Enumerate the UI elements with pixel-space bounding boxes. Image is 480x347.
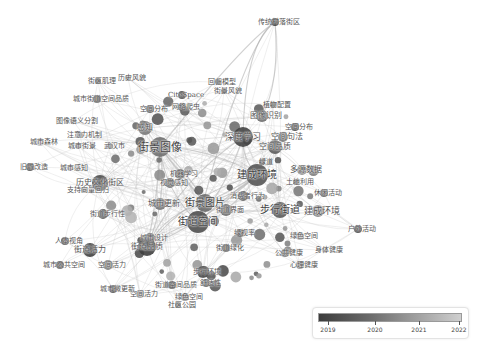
node-label: 城市感知: [60, 165, 88, 172]
keyword-node[interactable]: [190, 243, 198, 251]
legend-gradient-bar: [318, 313, 462, 322]
keyword-node[interactable]: [142, 190, 146, 194]
node-label: 街景风貌: [214, 88, 242, 95]
year-legend: 2019 2020 2021 2022: [312, 307, 469, 339]
legend-label-2020: 2020: [367, 326, 382, 333]
keyword-node[interactable]: [156, 157, 162, 163]
node-label: 公共健康: [275, 250, 303, 257]
node-label: 户外活动: [348, 226, 376, 233]
node-label: 心理健康: [290, 262, 318, 269]
keyword-node[interactable]: [210, 175, 217, 182]
node-label: 舒适性: [200, 280, 221, 287]
keyword-node[interactable]: [275, 157, 281, 163]
node-label: 城市森林: [30, 139, 58, 146]
keyword-node[interactable]: [256, 273, 261, 278]
node-label: 绿视率: [234, 230, 255, 237]
node-label: 建成环境: [237, 170, 277, 180]
node-label: 街道步行性: [90, 211, 125, 218]
keyword-node[interactable]: [187, 137, 196, 146]
legend-tick-2020: [375, 321, 376, 325]
keyword-node[interactable]: [125, 211, 137, 223]
node-label: CiteSpace: [168, 92, 204, 99]
node-label: 城市街道空间品质: [73, 96, 129, 103]
keyword-node[interactable]: [214, 168, 222, 176]
node-label: 旧城改造: [20, 164, 48, 171]
node-label: 空间活力: [98, 262, 126, 269]
node-label: 深度学习: [225, 133, 261, 142]
node-label: 街景图像: [138, 142, 182, 153]
node-label: 多源数据: [290, 166, 322, 174]
keyword-node[interactable]: [264, 223, 268, 227]
keyword-node[interactable]: [152, 113, 164, 125]
node-label: 人本视角: [55, 238, 83, 245]
node-label: 空间分布: [285, 124, 313, 131]
keyword-node[interactable]: [283, 226, 288, 231]
keyword-node[interactable]: [194, 186, 203, 195]
keyword-node[interactable]: [293, 186, 303, 196]
keyword-node[interactable]: [266, 183, 278, 195]
keyword-node[interactable]: [163, 259, 171, 267]
node-label: 图像语义分割: [56, 118, 98, 125]
node-label: 街道绿化: [216, 245, 244, 252]
keyword-node[interactable]: [263, 261, 270, 268]
node-label: 空间品质: [259, 143, 291, 151]
node-label: 传统村落街区: [258, 19, 300, 26]
node-label: 机器学习: [170, 171, 198, 178]
keyword-node[interactable]: [159, 269, 164, 274]
node-label: 土地利用: [286, 179, 314, 186]
node-label: 历史风貌: [118, 75, 146, 82]
keyword-node[interactable]: [249, 275, 254, 280]
keyword-node[interactable]: [152, 212, 157, 217]
keyword-node[interactable]: [230, 272, 241, 283]
node-label: 绿色空间: [290, 233, 318, 240]
legend-label-2021: 2021: [411, 326, 426, 333]
node-label: 街道空间品质: [155, 282, 197, 289]
node-label: 城市街景: [68, 143, 96, 150]
keyword-node[interactable]: [208, 143, 220, 155]
node-label: 建成环境: [304, 207, 340, 216]
node-label: 感知: [137, 124, 153, 132]
node-label: 步行街道: [260, 205, 300, 215]
legend-label-2019: 2019: [320, 326, 335, 333]
node-label: 网络爬虫: [172, 104, 200, 111]
node-label: 空间分布: [140, 106, 168, 113]
keyword-node[interactable]: [128, 150, 134, 156]
node-label: 街道活力: [74, 246, 106, 254]
node-label: 街道品质: [131, 243, 163, 251]
legend-tick-2019: [328, 321, 329, 325]
node-label: 武汉市: [104, 143, 125, 150]
node-label: 城市公共空间: [43, 262, 85, 269]
keyword-node[interactable]: [284, 114, 289, 119]
node-label: 社区公园: [168, 302, 196, 309]
node-label: 注意力机制: [67, 132, 102, 139]
node-label: 步行环境: [193, 269, 221, 276]
keyword-node[interactable]: [111, 154, 120, 163]
keyword-node[interactable]: [254, 229, 265, 240]
keyword-node[interactable]: [202, 101, 207, 106]
node-label: 植物配置: [263, 102, 291, 109]
legend-tick-2021: [419, 321, 420, 325]
node-label: 身体健康: [315, 247, 343, 254]
node-label: 休闲活动: [314, 190, 342, 197]
node-label: 消费者行为: [230, 193, 265, 200]
node-label: 回归模型: [208, 79, 236, 86]
keyword-node[interactable]: [227, 184, 233, 190]
keyword-node[interactable]: [203, 121, 211, 129]
node-label: 城市更新: [148, 200, 180, 208]
node-label: 街道界面: [216, 207, 244, 214]
node-label: 街道空间: [178, 217, 218, 227]
node-label: 绿色空间: [175, 294, 203, 301]
keyword-node[interactable]: [275, 233, 285, 243]
node-label: 街区肌理: [88, 78, 116, 85]
keyword-node[interactable]: [247, 218, 253, 224]
node-label: 空间句法: [271, 133, 303, 141]
node-label: 图像识别: [250, 112, 282, 120]
keyword-node[interactable]: [307, 193, 313, 199]
keyword-node[interactable]: [166, 272, 175, 281]
node-label: 绿道: [259, 159, 273, 166]
node-label: 视觉感知: [160, 180, 188, 187]
keyword-node[interactable]: [285, 241, 291, 247]
legend-tick-2022: [459, 321, 460, 325]
legend-label-2022: 2022: [451, 326, 466, 333]
node-label: 城市微更新: [100, 286, 135, 293]
